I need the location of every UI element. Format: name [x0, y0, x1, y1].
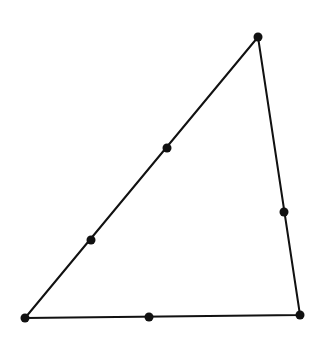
- point-left-edge-lower: [87, 236, 96, 245]
- triangle-diagram: [0, 0, 322, 344]
- edge-points: [87, 144, 289, 322]
- vertex-top: [254, 33, 263, 42]
- vertex-bottom-left: [21, 314, 30, 323]
- point-right-edge: [280, 208, 289, 217]
- vertex-bottom-right: [296, 311, 305, 320]
- point-bottom-edge: [145, 313, 154, 322]
- point-left-edge-upper: [163, 144, 172, 153]
- vertex-points: [21, 33, 305, 323]
- triangle-outline: [25, 37, 300, 318]
